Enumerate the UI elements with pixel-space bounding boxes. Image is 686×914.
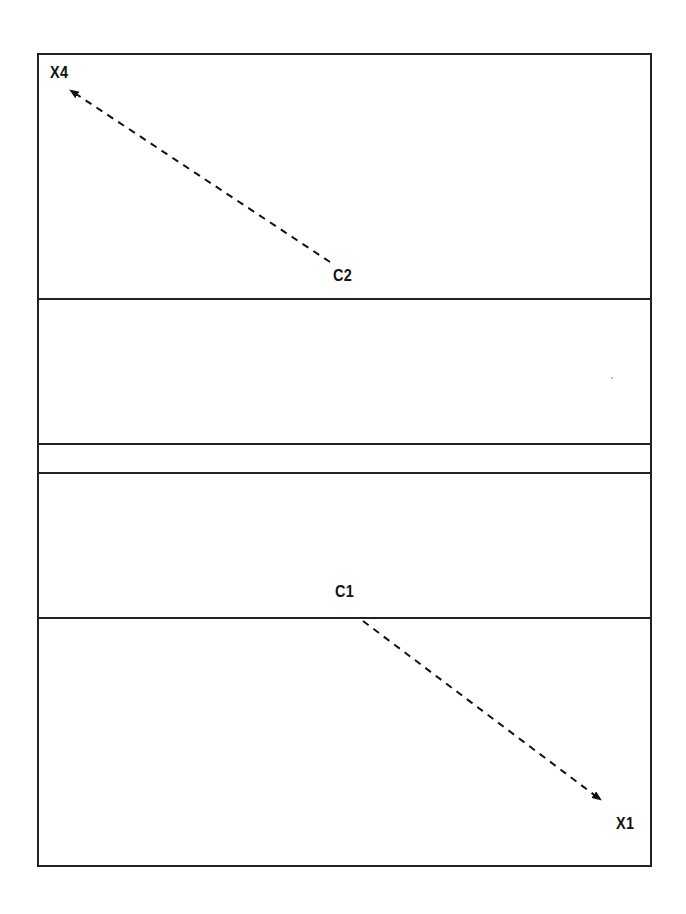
divider-line-2 bbox=[37, 443, 650, 445]
divider-line-1 bbox=[37, 298, 650, 300]
label-c2: C2 bbox=[333, 267, 352, 284]
divider-line-4 bbox=[37, 617, 650, 619]
speck-mark bbox=[611, 377, 613, 379]
label-x1: X1 bbox=[616, 815, 635, 832]
label-x4: X4 bbox=[50, 64, 69, 81]
divider-line-3 bbox=[37, 472, 650, 474]
diagram-frame bbox=[37, 53, 652, 867]
label-c1: C1 bbox=[335, 583, 354, 600]
